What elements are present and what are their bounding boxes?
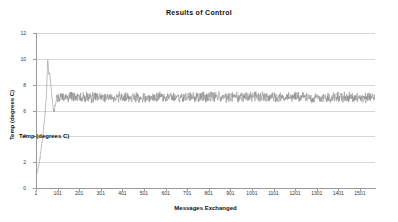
x-tick-label: 601	[161, 191, 169, 196]
chart-title: Results of Control	[0, 9, 398, 16]
y-axis-title-overlap: Temp (degrees C)	[19, 133, 69, 139]
y-tick-label: 8	[0, 82, 26, 87]
chart-root: Results of Control 024681012 11012013014…	[0, 0, 398, 222]
y-tick-label: 0	[0, 186, 26, 191]
x-tick-label: 301	[97, 191, 105, 196]
x-tick-label: 901	[226, 191, 234, 196]
x-tick-label: 701	[183, 191, 191, 196]
x-tick-label: 401	[118, 191, 126, 196]
x-tick-label: 1001	[246, 191, 257, 196]
x-axis-line	[36, 188, 376, 189]
y-tick-label: 12	[0, 31, 26, 36]
x-tick-label: 801	[205, 191, 213, 196]
x-tick-label: 1101	[268, 191, 279, 196]
x-tick-label: 1501	[354, 191, 365, 196]
x-tick-label: 1	[35, 191, 38, 196]
y-axis-title: Temp (degrees C)	[9, 90, 15, 140]
x-tick-label: 201	[75, 191, 83, 196]
x-tick-label: 1301	[311, 191, 322, 196]
x-axis-title: Messages Exchanged	[36, 205, 375, 211]
data-series-plot	[36, 33, 375, 188]
x-tick-label: 501	[140, 191, 148, 196]
x-tick-label: 1201	[290, 191, 301, 196]
y-tick-label: 10	[0, 56, 26, 61]
y-tick-label: 2	[0, 160, 26, 165]
x-tick-label: 1401	[333, 191, 344, 196]
x-tick-label: 101	[53, 191, 61, 196]
series-line-temp	[36, 60, 375, 175]
